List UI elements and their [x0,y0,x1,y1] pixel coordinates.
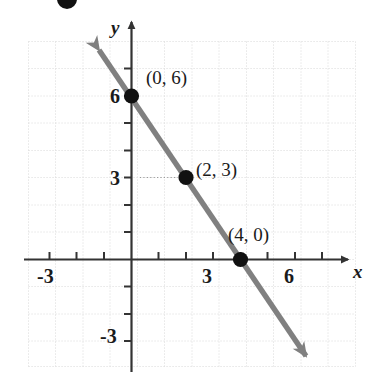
coordinate-plane-graph [0,0,379,378]
point-label-0-6: (0, 6) [146,68,187,87]
x-axis-label: x [353,262,363,281]
x-tick-label-3: 3 [202,266,212,286]
point-label-2-3: (2, 3) [196,160,237,179]
data-point-2-3 [178,170,193,185]
y-axis-label: y [111,18,119,37]
x-tick-label-6: 6 [284,266,294,286]
grid-lines [29,42,356,367]
y-tick-label-3: 3 [110,168,120,188]
point-label-4-0: (4, 0) [228,225,269,244]
y-tick-label-6: 6 [110,86,120,106]
y-tick-label--3: -3 [100,326,117,346]
data-point-0-6 [124,88,139,103]
data-point-4-0 [233,252,248,267]
x-axis [24,252,348,260]
x-tick-label--3: -3 [37,266,54,286]
y-axis [124,22,132,372]
